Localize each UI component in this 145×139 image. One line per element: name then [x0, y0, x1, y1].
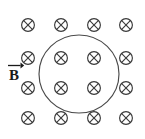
field-into-page-icon: [22, 19, 35, 32]
field-into-page-icon: [88, 52, 101, 65]
magnetic-field-vector-label: B: [8, 63, 24, 83]
vector-label-b: B: [9, 67, 19, 83]
field-into-page-icon: [22, 52, 35, 65]
physics-figure: B: [0, 0, 145, 139]
field-into-page-icon: [88, 82, 101, 95]
field-into-page-icon: [88, 112, 101, 125]
field-into-page-icon: [55, 82, 68, 95]
field-into-page-icon: [88, 19, 101, 32]
field-into-page-icon: [55, 112, 68, 125]
field-into-page-icon: [120, 112, 133, 125]
field-into-page-icon: [120, 82, 133, 95]
field-diagram-canvas: B: [0, 0, 145, 139]
field-into-page-icon: [55, 19, 68, 32]
field-into-page-icon: [120, 19, 133, 32]
field-into-page-icon: [22, 112, 35, 125]
field-into-page-icon: [120, 52, 133, 65]
field-into-page-icon: [55, 52, 68, 65]
loop-outline: [39, 35, 119, 113]
vector-arrow-head: [21, 63, 25, 69]
circular-loop: [39, 35, 119, 113]
field-into-page-icon: [22, 82, 35, 95]
